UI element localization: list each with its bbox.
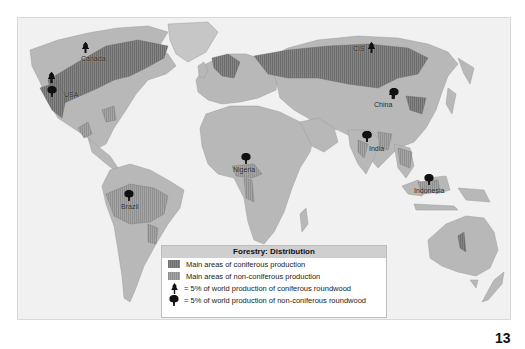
legend-label: Main areas of coniferous production (186, 260, 305, 269)
broadleaf-tree-icon (362, 131, 372, 142)
broadleaf-tree-icon (241, 153, 251, 164)
legend-item-non-coniferous-area: Main areas of non-coniferous production (162, 270, 386, 282)
conifer-tree-icon (171, 283, 178, 294)
label-india: India (369, 145, 384, 153)
legend-item-coniferous-area: Main areas of coniferous production (162, 258, 386, 270)
legend-item-non-coniferous-symbol: = 5% of world production of non-conifero… (162, 294, 386, 306)
legend-label: = 5% of world production of non-conifero… (184, 296, 366, 305)
legend-item-coniferous-symbol: = 5% of world production of coniferous r… (162, 282, 386, 294)
label-china: China (374, 101, 392, 109)
page-number: 13 (495, 330, 511, 346)
coniferous-area-swatch (168, 260, 180, 268)
broadleaf-tree-icon (424, 174, 434, 185)
label-nigeria: Nigeria (233, 166, 255, 174)
conifer-tree-icon (82, 42, 89, 53)
label-usa: USA (64, 91, 78, 99)
map-legend: Forestry: Distribution Main areas of con… (161, 245, 387, 318)
broadleaf-tree-icon (169, 295, 179, 306)
label-indonesia: Indonesia (414, 187, 444, 195)
non-coniferous-area-swatch (168, 272, 180, 280)
label-brazil: Brazil (121, 203, 139, 211)
label-cis: CIS (353, 45, 365, 53)
conifer-tree-icon (48, 72, 55, 83)
label-canada: Canada (81, 55, 106, 63)
legend-title: Forestry: Distribution (162, 246, 386, 258)
conifer-tree-icon (368, 42, 375, 53)
broadleaf-tree-icon (389, 88, 399, 99)
legend-label: Main areas of non-coniferous production (186, 272, 320, 281)
broadleaf-tree-icon (124, 190, 134, 201)
broadleaf-tree-icon (47, 86, 57, 97)
legend-label: = 5% of world production of coniferous r… (184, 284, 351, 293)
